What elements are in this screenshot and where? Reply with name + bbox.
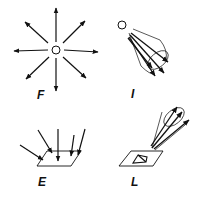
panel-intensity: I (118, 21, 172, 101)
point-source-icon (118, 21, 126, 29)
radiating-arrows (14, 8, 98, 91)
panel-flux: F (14, 8, 98, 102)
label-F: F (37, 88, 45, 102)
cone-arrows (128, 33, 168, 76)
patch-icon (133, 155, 147, 163)
surface-plane (119, 151, 163, 166)
label-I: I (131, 87, 135, 101)
surface-patch (37, 151, 81, 166)
panel-irradiance: E (20, 129, 85, 189)
outgoing-arrows (151, 107, 189, 149)
label-E: E (38, 175, 47, 189)
label-L: L (131, 175, 138, 189)
incident-arrows (20, 129, 85, 161)
radiometry-diagram: F I E (0, 0, 200, 201)
panel-radiance: L (119, 104, 189, 189)
point-source-icon (52, 46, 60, 54)
